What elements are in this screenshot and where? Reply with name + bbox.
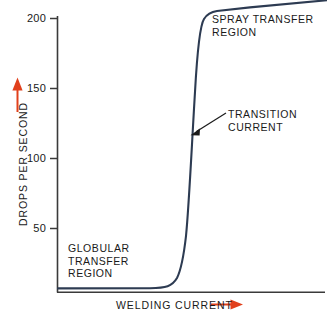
annotation-spray-line-1: SPRAY TRANSFER [212, 13, 314, 26]
y-tick-label-200: 200 [8, 12, 46, 24]
chart-plot-area [0, 0, 327, 314]
welding-current-drop-rate-chart: 200 150 100 50 DROPS PER SECOND WELDING … [0, 0, 327, 314]
y-axis-title: DROPS PER SECOND [17, 89, 29, 239]
annotation-transition-current: TRANSITION CURRENT [228, 108, 297, 133]
x-axis-title: WELDING CURRENT [116, 299, 233, 311]
annotation-transition-line-1: TRANSITION [228, 108, 297, 121]
transition-current-arrow [191, 113, 227, 136]
annotation-globular-line-2: TRANSFER [68, 255, 130, 268]
annotation-globular-transfer-region: GLOBULAR TRANSFER REGION [68, 242, 130, 280]
annotation-globular-line-3: REGION [68, 267, 130, 280]
annotation-transition-line-2: CURRENT [228, 121, 297, 134]
annotation-spray-transfer-region: SPRAY TRANSFER REGION [212, 13, 314, 38]
annotation-spray-line-2: REGION [212, 26, 314, 39]
annotation-globular-line-1: GLOBULAR [68, 242, 130, 255]
